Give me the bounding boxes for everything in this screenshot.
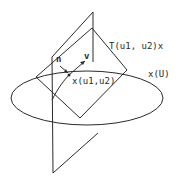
surface-label: x(U) (148, 70, 170, 79)
point-dot (68, 74, 71, 77)
surface-curve (52, 74, 70, 100)
normal-label: n (56, 55, 61, 64)
vector-label: v (84, 52, 89, 61)
normal-plane (52, 12, 98, 173)
point-label: x(u1,u2) (72, 77, 115, 86)
diagram-canvas (0, 0, 179, 184)
tangent-plane-label: T(u1, u2)x (109, 42, 163, 51)
